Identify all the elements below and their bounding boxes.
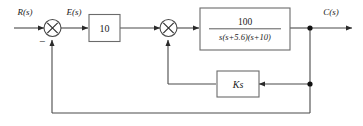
summing-junction-2 [160,20,177,37]
ks-block: Ks [217,71,259,97]
outer-feedback-wires [52,40,310,113]
output-signal-label: C(s) [323,7,339,17]
junction-dot-ks-tap [307,81,312,86]
plant-block: 100 s(s+5.6)(s+10) [200,8,290,50]
error-signal-label: E(s) [66,7,82,17]
block-diagram-svg: − 10 100 s(s+5.6)(s+10) Ks R(s) E(s) C(s [0,0,363,126]
gain-block-label: 10 [100,23,110,34]
sum1-negative-sign: − [39,35,45,47]
plant-denominator: s(s+5.6)(s+10) [219,32,271,42]
input-signal-label: R(s) [17,7,33,17]
junction-dot-output [307,25,312,30]
plant-numerator: 100 [238,17,253,27]
ks-block-label: Ks [232,79,244,90]
block-diagram-canvas: − 10 100 s(s+5.6)(s+10) Ks R(s) E(s) C(s [0,0,363,126]
summing-junction-1: − [39,20,61,48]
gain-block: 10 [89,15,120,42]
